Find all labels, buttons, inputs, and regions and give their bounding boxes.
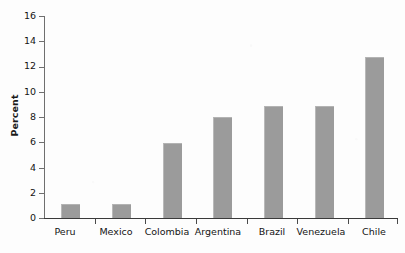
bar-chart-figure: Percent 16 14 12 10 8 6 4 2 0 bbox=[0, 0, 405, 253]
x-label-mexico: Mexico bbox=[91, 227, 141, 237]
x-tick-mark-5 bbox=[297, 219, 298, 224]
y-tick-label-0: 0 bbox=[8, 213, 36, 223]
x-label-argentina: Argentina bbox=[192, 227, 244, 237]
x-label-chile: Chile bbox=[349, 227, 399, 237]
y-tick-label-2: 2 bbox=[8, 188, 36, 198]
x-axis-line bbox=[44, 218, 398, 219]
y-tick-label-4: 4 bbox=[8, 163, 36, 173]
x-tick-mark-4 bbox=[247, 219, 248, 224]
x-tick-mark-2 bbox=[145, 219, 146, 224]
y-tick-label-16: 16 bbox=[8, 11, 36, 21]
bar-argentina[interactable] bbox=[213, 117, 232, 218]
bar-venezuela[interactable] bbox=[315, 106, 334, 218]
y-tick-label-6: 6 bbox=[8, 137, 36, 147]
x-tick-mark-1 bbox=[95, 219, 96, 224]
y-tick-label-8: 8 bbox=[8, 112, 36, 122]
x-label-venezuela: Venezuela bbox=[294, 227, 348, 237]
y-tick-label-12: 12 bbox=[8, 61, 36, 71]
y-axis-ticks: 16 14 12 10 8 6 4 2 0 bbox=[0, 0, 45, 253]
bar-peru[interactable] bbox=[61, 204, 80, 218]
x-axis-category-labels: Peru Mexico Colombia Argentina Brazil Ve… bbox=[45, 227, 398, 247]
plot-area bbox=[45, 16, 398, 218]
x-label-colombia: Colombia bbox=[141, 227, 193, 237]
x-label-brazil: Brazil bbox=[247, 227, 297, 237]
y-tick-label-14: 14 bbox=[8, 36, 36, 46]
y-tick-label-10: 10 bbox=[8, 87, 36, 97]
bar-colombia[interactable] bbox=[163, 143, 182, 218]
x-label-peru: Peru bbox=[40, 227, 90, 237]
bar-mexico[interactable] bbox=[112, 204, 131, 218]
bar-brazil[interactable] bbox=[264, 106, 283, 218]
x-tick-mark-3 bbox=[196, 219, 197, 224]
x-tick-mark-6 bbox=[348, 219, 349, 224]
bar-chile[interactable] bbox=[365, 57, 384, 218]
x-tick-mark-7 bbox=[397, 219, 398, 224]
